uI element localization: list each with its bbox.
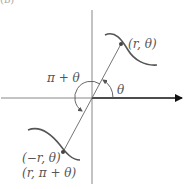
label-neg-r-theta: (−r, θ) xyxy=(22,152,61,164)
label-r-theta: (r, θ) xyxy=(128,38,157,50)
polar-diagram: (b) (r, θ) θ π + θ (−r, θ) (r, π xyxy=(0,0,188,189)
theta-angle-arc xyxy=(103,80,113,98)
label-r-pi-theta: (r, π + θ) xyxy=(22,167,76,179)
point-r-theta xyxy=(119,42,123,46)
label-pi-plus-theta: π + θ xyxy=(47,72,80,84)
point-neg-r-theta xyxy=(61,150,65,154)
label-theta: θ xyxy=(117,84,124,96)
figure-part-label: (b) xyxy=(0,0,14,5)
